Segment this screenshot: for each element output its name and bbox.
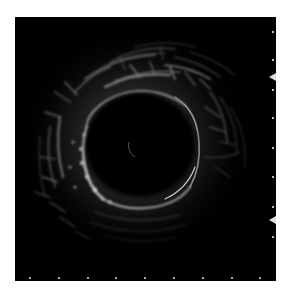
vessel-lumen-core — [90, 97, 190, 193]
ivus-scan-image — [15, 17, 276, 281]
image-caption — [70, 285, 230, 293]
page — [0, 0, 286, 294]
ivus-scan-svg — [15, 17, 276, 281]
